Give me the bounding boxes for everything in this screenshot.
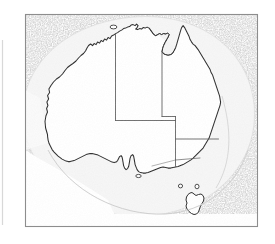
- map-contents: [22, 14, 258, 227]
- map-figure-root: [0, 0, 275, 244]
- photocopy-grain-overlay: [25, 14, 258, 227]
- map-canvas: [0, 0, 275, 244]
- map-of-australia-figure: [0, 0, 275, 244]
